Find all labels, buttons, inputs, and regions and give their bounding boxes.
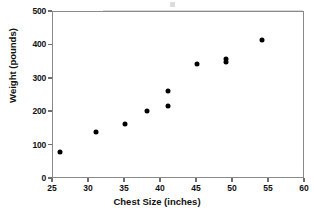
x-tick-mark [195,178,197,182]
y-tick-label: 300 [24,73,46,83]
x-tick-label: 50 [219,183,245,193]
y-tick-mark [48,110,52,112]
data-point [195,61,200,66]
y-tick-mark [48,77,52,79]
y-axis-title: Weight (pounds) [7,1,18,131]
y-tick-label: 100 [24,140,46,150]
y-tick-label: 200 [24,106,46,116]
x-tick-label: 25 [39,183,65,193]
x-tick-mark [267,178,269,182]
x-tick-mark [51,178,53,182]
data-point [123,121,128,126]
x-tick-label: 55 [255,183,281,193]
x-tick-label: 60 [291,183,314,193]
data-point [166,103,171,108]
data-point [94,129,99,134]
plot-area [52,11,304,178]
x-tick-label: 40 [147,183,173,193]
y-tick-label: 0 [24,173,46,183]
data-point [58,150,63,155]
top-artifact-speck [170,2,175,7]
x-tick-label: 35 [111,183,137,193]
x-axis-title: Chest Size (inches) [0,196,314,207]
y-tick-mark [48,10,52,12]
x-tick-mark [87,178,89,182]
y-tick-label: 500 [24,6,46,16]
x-tick-mark [303,178,305,182]
data-point [144,108,149,113]
x-tick-mark [123,178,125,182]
data-point [223,56,228,61]
data-point [259,38,264,43]
x-tick-mark [159,178,161,182]
y-tick-label: 400 [24,39,46,49]
scatter-chart: 0100200300400500 2530354045505560 Chest … [0,0,314,215]
x-tick-label: 45 [183,183,209,193]
x-tick-mark [231,178,233,182]
data-point [166,89,171,94]
y-tick-mark [48,44,52,46]
y-tick-mark [48,144,52,146]
x-tick-label: 30 [75,183,101,193]
